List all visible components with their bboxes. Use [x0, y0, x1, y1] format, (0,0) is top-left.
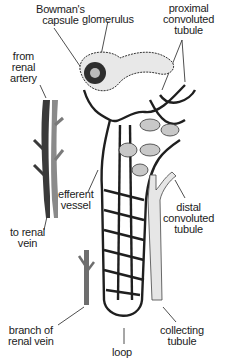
label-from-renal-artery: from renal artery: [10, 51, 37, 84]
label-proximal-convoluted-tubule: proximal convoluted tubule: [163, 3, 214, 36]
label-efferent-vessel: efferent vessel: [58, 189, 94, 211]
label-to-renal-vein: to renal vein: [10, 227, 45, 249]
bowmans-capsule-shape: [80, 52, 174, 91]
label-bowmans-capsule: Bowman's capsule: [36, 4, 85, 26]
label-distal-convoluted-tubule: distal convoluted tubule: [163, 202, 214, 235]
label-glomerulus: glomerulus: [82, 14, 134, 25]
branch-of-renal-vein-shape: [79, 250, 94, 305]
label-loop: loop: [112, 347, 132, 358]
label-collecting-tubule: collecting tubule: [160, 325, 204, 347]
label-branch-of-renal-vein: branch of renal vein: [8, 325, 54, 347]
collecting-tubule-shape: [148, 172, 176, 300]
